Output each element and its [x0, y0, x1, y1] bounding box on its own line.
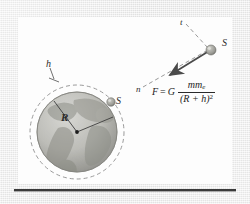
formula-denominator-base: (R + h): [180, 93, 210, 104]
bottom-rule: [14, 189, 236, 191]
formula-denominator-exponent: 2: [210, 93, 214, 101]
earth-globe: [37, 92, 117, 179]
formula-numerator-subscript: e: [202, 83, 205, 91]
altitude-leader: [49, 68, 59, 82]
formula-denominator: (R + h)2: [178, 93, 215, 104]
gravitational-force-formula: F = G mme (R + h)2: [152, 80, 215, 104]
formula-constant-g: G: [168, 87, 175, 97]
label-satellite-orbit-s: S: [116, 96, 121, 106]
figure-root: h R S S t n F = G mme (R + h)2: [0, 0, 250, 204]
label-altitude-h: h: [46, 59, 51, 69]
formula-equals: =: [160, 87, 166, 97]
label-satellite-free-s: S: [222, 38, 227, 48]
label-tangent-t: t: [180, 18, 183, 27]
formula-force-symbol: F: [152, 87, 158, 97]
tangent-line: [186, 24, 208, 48]
formula-numerator-mass: mm: [188, 79, 202, 90]
label-radius-r: R: [61, 112, 68, 123]
earth-center-dot: [75, 130, 79, 134]
formula-fraction: mme (R + h)2: [178, 80, 215, 104]
satellite-on-orbit: [107, 98, 115, 106]
label-normal-n: n: [136, 85, 141, 94]
force-arrow: [170, 51, 209, 75]
satellite-free: [206, 45, 216, 55]
formula-numerator: mme: [186, 80, 208, 92]
